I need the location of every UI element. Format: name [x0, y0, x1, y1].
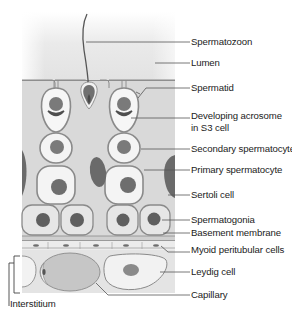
- label-spermatozoon: Spermatozoon: [191, 36, 252, 48]
- label-developing-acrosome: Developing acrosome: [191, 110, 282, 122]
- histology-diagram: Spermatozoon Lumen Spermatid Developing …: [0, 0, 292, 314]
- basement-membrane-layer: [22, 236, 175, 250]
- label-basement-membrane: Basement membrane: [191, 227, 281, 239]
- label-myoid-peritubular-cells: Myoid peritubular cells: [191, 244, 284, 256]
- label-capillary: Capillary: [191, 289, 227, 301]
- label-lumen: Lumen: [191, 57, 220, 69]
- label-interstitium: Interstitium: [10, 298, 56, 310]
- interstitium-region: [22, 250, 175, 293]
- label-primary-spermatocyte: Primary spermatocyte: [191, 164, 282, 176]
- lumen-region: [22, 12, 175, 82]
- label-spermatid: Spermatid: [191, 82, 234, 94]
- label-leydig-cell: Leydig cell: [191, 266, 235, 278]
- label-developing-acrosome-line2: in S3 cell: [191, 122, 229, 134]
- label-spermatogonia: Spermatogonia: [191, 214, 255, 226]
- label-sertoli-cell: Sertoli cell: [191, 189, 234, 201]
- label-secondary-spermatocyte: Secondary spermatocyte: [191, 143, 292, 155]
